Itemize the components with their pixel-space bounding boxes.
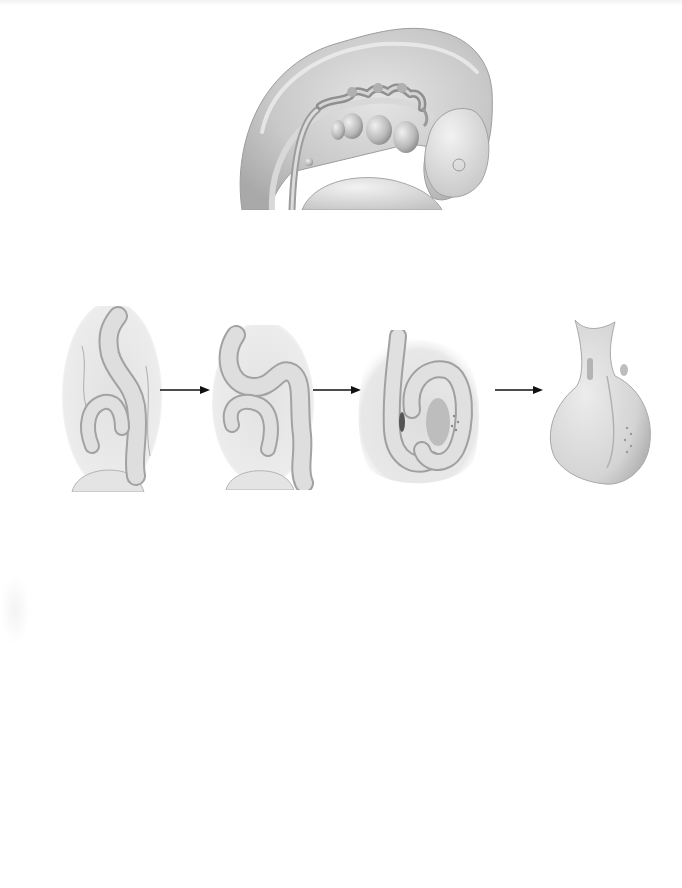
heart-tube-stage-2 [212, 325, 314, 490]
arrow-right-icon [160, 385, 210, 395]
primitive-heart-stage-4 [545, 318, 655, 490]
bleed-through-smudge [0, 575, 30, 645]
heart-tube-stage-1 [62, 306, 162, 492]
page-top-edge [0, 0, 682, 6]
arrow-right-icon [313, 385, 361, 395]
embryo-head-illustration [232, 22, 494, 210]
heart-tube-stage-3 [356, 330, 484, 490]
arrow-right-icon [495, 385, 543, 395]
